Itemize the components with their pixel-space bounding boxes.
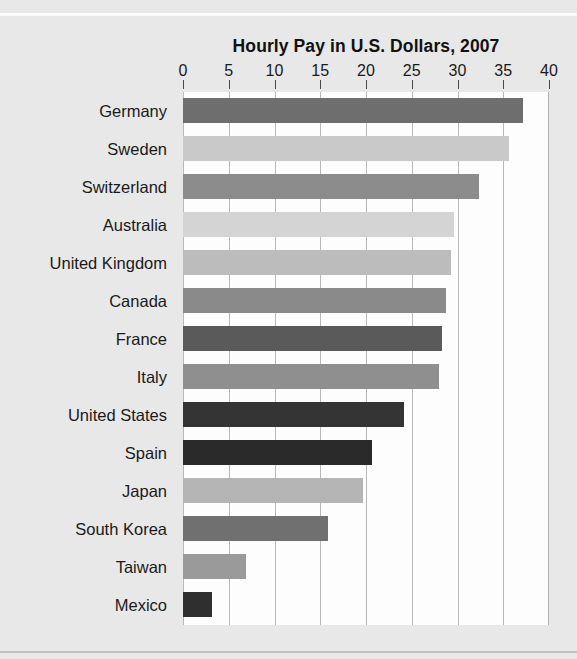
x-tick-mark-25 (412, 80, 413, 89)
x-tick-label-0: 0 (179, 62, 188, 80)
x-tick-label-35: 35 (494, 62, 512, 80)
bar-row (183, 548, 549, 586)
bar-france (183, 326, 442, 351)
category-label-italy: Italy (137, 358, 167, 396)
x-tick-label-10: 10 (266, 62, 284, 80)
x-tick-mark-35 (503, 80, 504, 89)
x-tick-mark-5 (229, 80, 230, 89)
x-tick-label-30: 30 (449, 62, 467, 80)
bar-mexico (183, 592, 212, 617)
bar-row (183, 396, 549, 434)
bar-south-korea (183, 516, 328, 541)
x-tick-mark-30 (458, 80, 459, 89)
bar-sweden (183, 136, 509, 161)
category-label-mexico: Mexico (115, 586, 167, 624)
bar-row (183, 92, 549, 130)
x-tick-label-20: 20 (357, 62, 375, 80)
chart-title: Hourly Pay in U.S. Dollars, 2007 (183, 36, 549, 57)
bar-australia (183, 212, 454, 237)
category-label-canada: Canada (109, 282, 167, 320)
x-tick-mark-0 (183, 80, 184, 89)
bar-row (183, 472, 549, 510)
x-tick-mark-40 (549, 80, 550, 89)
bar-row (183, 320, 549, 358)
y-axis-category-labels: GermanySwedenSwitzerlandAustraliaUnited … (0, 92, 175, 625)
bar-japan (183, 478, 363, 503)
category-label-germany: Germany (99, 92, 167, 130)
bar-row (183, 586, 549, 624)
bar-united-kingdom (183, 250, 451, 275)
category-label-spain: Spain (125, 434, 167, 472)
bar-row (183, 510, 549, 548)
category-label-united-states: United States (68, 396, 167, 434)
bar-row (183, 130, 549, 168)
bar-united-states (183, 402, 404, 427)
category-label-taiwan: Taiwan (116, 548, 167, 586)
x-tick-mark-15 (320, 80, 321, 89)
x-tick-label-25: 25 (403, 62, 421, 80)
category-label-australia: Australia (103, 206, 167, 244)
category-label-france: France (116, 320, 167, 358)
bar-canada (183, 288, 446, 313)
category-label-switzerland: Switzerland (82, 168, 167, 206)
bar-row (183, 244, 549, 282)
category-label-united-kingdom: United Kingdom (50, 244, 167, 282)
bar-taiwan (183, 554, 246, 579)
bar-row (183, 434, 549, 472)
category-label-japan: Japan (122, 472, 167, 510)
category-label-south-korea: South Korea (75, 510, 167, 548)
bar-chart-figure: Hourly Pay in U.S. Dollars, 2007 0510152… (0, 0, 577, 659)
x-tick-mark-10 (275, 80, 276, 89)
category-label-sweden: Sweden (107, 130, 167, 168)
bar-germany (183, 98, 523, 123)
x-tick-label-40: 40 (540, 62, 558, 80)
bar-italy (183, 364, 439, 389)
x-axis-tick-labels: 0510152025303540 (0, 62, 577, 84)
bar-row (183, 358, 549, 396)
bar-row (183, 282, 549, 320)
x-tick-label-5: 5 (224, 62, 233, 80)
x-tick-mark-20 (366, 80, 367, 89)
bar-row (183, 206, 549, 244)
bar-switzerland (183, 174, 479, 199)
plot-area (183, 92, 549, 625)
bar-row (183, 168, 549, 206)
bar-spain (183, 440, 372, 465)
x-tick-label-15: 15 (311, 62, 329, 80)
